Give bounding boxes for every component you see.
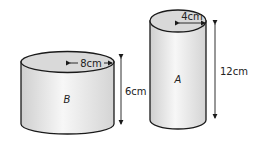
cylinder-name-b: B [64,94,71,105]
radius-label-b: 8cm [80,58,102,69]
cylinders-diagram: 8cm 6cm B 4cm 12cm A [0,0,253,148]
radius-label-a: 4cm [181,11,203,22]
cylinder-a: 4cm 12cm A [150,10,248,129]
height-label-a: 12cm [220,66,248,77]
height-label-b: 6cm [125,86,147,97]
cylinder-name-a: A [174,74,182,85]
cylinder-b: 8cm 6cm B [21,52,147,135]
